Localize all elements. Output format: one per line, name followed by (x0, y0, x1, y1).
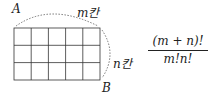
formula-numerator: (m + n)! (148, 34, 208, 51)
label-vertical-n: n칸 (113, 54, 132, 71)
formula-fraction: (m + n)! m!n! (148, 34, 208, 66)
label-end-b: B (102, 81, 111, 95)
label-start-a: A (12, 2, 21, 16)
formula-denominator: m!n! (148, 51, 208, 66)
label-horizontal-m: m칸 (77, 3, 99, 20)
vertical-span-arc (102, 30, 110, 78)
